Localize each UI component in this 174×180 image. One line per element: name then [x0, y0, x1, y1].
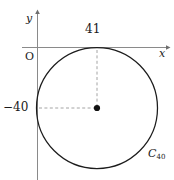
- origin-label: O: [25, 51, 34, 62]
- curve-name-subscript: 40: [156, 153, 165, 161]
- x-axis-label: x: [159, 48, 165, 59]
- x-axis-arrow-icon: [166, 45, 171, 50]
- y-axis-label: y: [26, 13, 32, 24]
- curve-name-label: C40: [148, 148, 166, 161]
- figure-canvas: y x O 41 −40 C40: [0, 0, 174, 180]
- circle-center-point: [94, 105, 100, 111]
- y-axis-arrow-icon: [35, 10, 40, 15]
- center-y-value-label: −40: [3, 101, 28, 113]
- tangent-x-value-label: 41: [85, 23, 100, 35]
